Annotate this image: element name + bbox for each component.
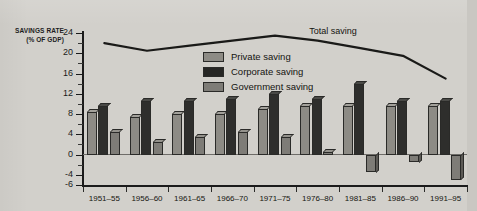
bar-top-shade xyxy=(397,98,410,101)
y-tick-24 xyxy=(76,33,83,34)
y-axis-line xyxy=(82,31,84,187)
bar-face xyxy=(153,142,163,155)
bar-face xyxy=(195,137,205,155)
bar-1986-90-private xyxy=(386,106,396,154)
bar-top-shade xyxy=(238,129,251,132)
total-saving-label: Total saving xyxy=(309,26,357,36)
bar-1976-80-private xyxy=(300,106,310,154)
bar-face xyxy=(269,94,279,155)
bar-face xyxy=(312,99,322,155)
bar-1956-60-government xyxy=(153,142,163,155)
bar-face xyxy=(440,101,450,154)
y-minor-tick--2 xyxy=(78,165,83,166)
y-tick-label-4: 4 xyxy=(51,128,73,138)
x-tick-4 xyxy=(254,187,255,192)
x-tick-9 xyxy=(467,187,468,192)
bar-1981-85-corporate xyxy=(354,84,364,155)
x-tick-0 xyxy=(83,187,84,192)
x-tick-label-1991-95: 1991–95 xyxy=(424,194,467,203)
bar-1966-70-corporate xyxy=(226,99,236,155)
bar-top-shade xyxy=(323,149,336,152)
bar-top-shade xyxy=(440,98,453,101)
y-tick-16 xyxy=(76,74,83,75)
bar-1976-80-government xyxy=(323,152,333,155)
bar-1956-60-private xyxy=(130,117,140,155)
y-minor-tick-18 xyxy=(78,63,83,64)
bar-face xyxy=(172,114,182,155)
y-tick-label--6: -6 xyxy=(51,179,73,189)
y-minor-tick-14 xyxy=(78,84,83,85)
bar-1956-60-corporate xyxy=(141,101,151,154)
y-tick-label-24: 24 xyxy=(51,27,73,37)
bar-side-shade xyxy=(419,152,422,163)
bar-face xyxy=(409,155,419,163)
x-tick-label-1971-75: 1971–75 xyxy=(254,194,297,203)
bar-1981-85-private xyxy=(343,106,353,154)
bar-1961-65-corporate xyxy=(184,101,194,154)
bar-face xyxy=(141,101,151,154)
bar-1971-75-private xyxy=(258,109,268,155)
bar-1986-90-government xyxy=(409,155,419,163)
bar-face xyxy=(215,114,225,155)
bar-1966-70-private xyxy=(215,114,225,155)
x-tick-label-1951-55: 1951–55 xyxy=(83,194,126,203)
bar-side-shade xyxy=(461,152,464,180)
y-tick-label-16: 16 xyxy=(51,68,73,78)
y-tick-0 xyxy=(76,155,83,156)
bar-1991-95-private xyxy=(428,106,438,154)
x-tick-label-1966-70: 1966–70 xyxy=(211,194,254,203)
legend-swatch-private-icon xyxy=(203,52,224,62)
bar-side-shade xyxy=(376,152,379,173)
legend-swatch-corporate-icon xyxy=(203,67,224,77)
y-minor-tick-2 xyxy=(78,144,83,145)
bar-1951-55-private xyxy=(87,112,97,155)
bar-top-shade xyxy=(354,81,367,84)
legend-swatch-government-icon xyxy=(203,82,224,92)
legend-item-private: Private saving xyxy=(203,50,313,63)
y-tick-8 xyxy=(76,114,83,115)
legend-label-corporate: Corporate saving xyxy=(231,66,303,77)
x-tick-label-1981-85: 1981–85 xyxy=(339,194,382,203)
bar-top-shade xyxy=(281,134,294,137)
y-minor-tick-6 xyxy=(78,124,83,125)
bar-face xyxy=(226,99,236,155)
bar-top-shade xyxy=(226,96,239,99)
y-tick--6 xyxy=(76,185,83,186)
bar-1981-85-government xyxy=(366,155,376,173)
y-tick-label--4: -4 xyxy=(51,169,73,179)
page-right-margin xyxy=(467,0,477,211)
x-axis-line xyxy=(82,185,468,187)
chart-figure: SAVINGS RATE (% OF GDP) 24201612840-4-6 … xyxy=(0,0,477,211)
bar-1971-75-government xyxy=(281,137,291,155)
bar-face xyxy=(184,101,194,154)
x-tick-label-1956-60: 1956–60 xyxy=(126,194,169,203)
bar-1951-55-government xyxy=(110,132,120,155)
bar-face xyxy=(130,117,140,155)
bar-face xyxy=(397,101,407,154)
bar-face xyxy=(98,106,108,154)
bar-top-shade xyxy=(184,98,197,101)
legend-label-private: Private saving xyxy=(231,51,291,62)
bar-top-shade xyxy=(141,98,154,101)
y-tick-label-8: 8 xyxy=(51,108,73,118)
bar-top-shade xyxy=(312,96,325,99)
bar-face xyxy=(281,137,291,155)
chart-legend: Private saving Corporate saving Governme… xyxy=(203,50,313,95)
y-tick-label-12: 12 xyxy=(51,88,73,98)
y-tick-4 xyxy=(76,134,83,135)
bar-top-shade xyxy=(110,129,123,132)
y-minor-tick-10 xyxy=(78,104,83,105)
y-tick-20 xyxy=(76,53,83,54)
x-tick-label-1961-65: 1961–65 xyxy=(168,194,211,203)
y-tick-label-0: 0 xyxy=(51,149,73,159)
x-tick-1 xyxy=(126,187,127,192)
bar-1986-90-corporate xyxy=(397,101,407,154)
y-tick-label-20: 20 xyxy=(51,47,73,57)
bar-face xyxy=(238,132,248,155)
bar-face xyxy=(428,106,438,154)
bar-1966-70-government xyxy=(238,132,248,155)
bar-face xyxy=(300,106,310,154)
x-tick-8 xyxy=(424,187,425,192)
legend-label-government: Government saving xyxy=(231,81,313,92)
bar-face xyxy=(323,152,333,155)
